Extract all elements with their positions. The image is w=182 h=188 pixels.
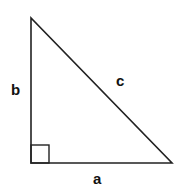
right-triangle-diagram: b c a (0, 0, 182, 188)
side-label-b: b (11, 81, 20, 98)
side-label-a: a (93, 170, 102, 187)
side-label-c: c (116, 72, 124, 89)
right-angle-marker (31, 145, 49, 163)
triangle-outline (31, 18, 172, 163)
